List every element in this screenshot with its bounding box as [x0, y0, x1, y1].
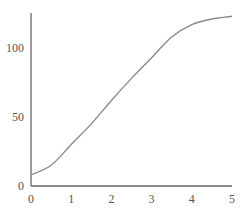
x-tick-label: 2	[108, 192, 114, 206]
line-chart: 050100 012345	[0, 0, 246, 218]
data-line	[31, 16, 232, 175]
y-tick-label: 50	[12, 110, 24, 124]
x-axis-ticks: 012345	[28, 192, 235, 206]
y-tick-label: 0	[18, 179, 24, 193]
x-tick-label: 0	[28, 192, 34, 206]
x-tick-label: 5	[229, 192, 235, 206]
x-tick-label: 3	[149, 192, 155, 206]
y-axis-ticks: 050100	[6, 41, 24, 193]
x-tick-label: 1	[68, 192, 74, 206]
y-tick-label: 100	[6, 41, 24, 55]
x-tick-label: 4	[189, 192, 195, 206]
